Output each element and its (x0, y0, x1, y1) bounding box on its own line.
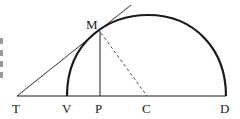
tangent-line (17, 5, 131, 96)
label-P: P (95, 101, 102, 116)
label-T: T (12, 101, 20, 116)
radius-MC (101, 33, 147, 96)
label-C: C (142, 101, 151, 116)
geometry-figure: M T V P C D (0, 0, 240, 119)
label-V: V (62, 101, 72, 116)
label-M: M (86, 17, 98, 32)
label-D: D (220, 101, 229, 116)
